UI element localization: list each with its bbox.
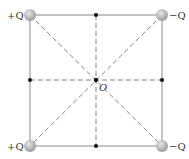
midpoint-dot-right: [160, 78, 164, 82]
charge-top-right: [156, 9, 168, 21]
center-dot: [94, 78, 98, 82]
charge-label-top-left: +Q: [7, 10, 24, 21]
center-label: O: [99, 82, 107, 93]
charge-bottom-left: [24, 140, 36, 152]
charge-label-bottom-left: +Q: [7, 141, 24, 152]
charge-top-left: [24, 9, 36, 21]
midpoint-dot-left: [28, 78, 32, 82]
charge-square-diagram: O +Q −Q +Q −Q: [0, 0, 189, 159]
charge-label-top-right: −Q: [169, 10, 186, 21]
charge-label-bottom-right: −Q: [169, 141, 186, 152]
midpoint-dot-top: [94, 13, 98, 17]
charge-bottom-right: [156, 140, 168, 152]
midpoint-dot-bottom: [94, 144, 98, 148]
